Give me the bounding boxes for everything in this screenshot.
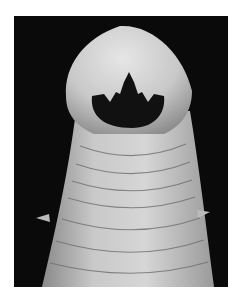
worm-illustration (14, 16, 228, 287)
micrograph-image (14, 16, 228, 287)
